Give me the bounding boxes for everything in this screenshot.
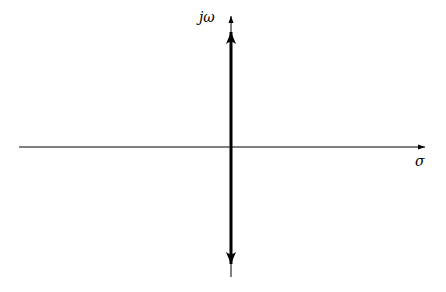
jw-axis-label: jω (199, 9, 215, 25)
axes-drawing (0, 0, 446, 292)
s-plane-diagram: jω σ (0, 0, 446, 292)
sigma-axis-label: σ (415, 153, 425, 169)
